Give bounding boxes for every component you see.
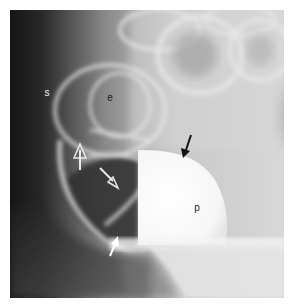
label-e: e [107,93,113,103]
label-s: s [45,88,50,98]
label-p: p [194,203,200,213]
radiograph-figure: s e p [10,10,284,298]
radiograph-image [10,10,284,298]
